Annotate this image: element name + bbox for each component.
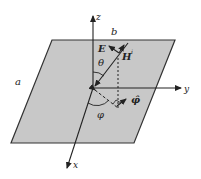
x-axis-label: x: [73, 160, 78, 170]
region-a-label: a: [15, 76, 21, 87]
region-b-label: b: [111, 26, 117, 37]
diagram-canvas: z y x a b E H i θ φ φ̂: [0, 0, 201, 179]
h-field-superscript: i: [131, 48, 133, 55]
theta-label: θ: [98, 57, 104, 68]
phi-hat-label: φ̂: [131, 94, 140, 105]
y-axis-label: y: [183, 84, 190, 94]
z-axis-label: z: [95, 12, 101, 22]
phi-label: φ: [97, 109, 104, 120]
e-field-label: E: [97, 43, 106, 54]
